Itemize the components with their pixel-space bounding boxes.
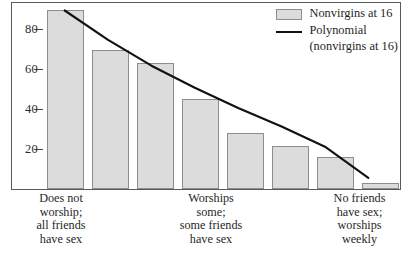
x-label-line: have sex; [312,206,407,220]
chart-root: 80 60 40 20 Does not worship; [0,0,412,263]
y-tick-label: 80 [25,22,38,37]
x-label-line: worship; [11,206,111,220]
x-axis-label-right: No friends have sex; worships weekly [312,192,407,246]
x-label-line: weekly [312,233,407,247]
x-label-line: some; [156,206,266,220]
x-axis-label-middle: Worships some; some friends have sex [156,192,266,246]
bar [272,146,309,189]
bar [317,157,354,189]
bar [137,63,174,189]
y-tick-label: 60 [25,62,38,77]
x-label-line: No friends [312,192,407,206]
legend-line-sublabel: (nonvirgins at 16) [309,39,398,54]
x-axis-label-left: Does not worship; all friends have sex [11,192,111,246]
bar [92,50,129,189]
legend-item-bar: Nonvirgins at 16 [276,6,398,21]
bar [362,183,399,189]
legend-bar-label: Nonvirgins at 16 [309,6,392,21]
x-label-line: Worships [156,192,266,206]
x-label-line: some friends [156,219,266,233]
y-tick-label: 20 [25,142,38,157]
legend-bar-swatch-icon [276,9,302,20]
x-label-line: all friends [11,219,111,233]
y-tick-label: 40 [25,102,38,117]
legend-line-swatch-icon [276,31,302,33]
chart-legend: Nonvirgins at 16 Polynomial (nonvirgins … [276,6,398,54]
x-label-line: have sex [156,233,266,247]
x-label-line: Does not [11,192,111,206]
bar [227,133,264,189]
legend-item-line: Polynomial [276,23,398,38]
bar [182,99,219,189]
legend-line-label: Polynomial [309,23,366,38]
x-label-line: worships [312,219,407,233]
bar [47,10,84,189]
x-label-line: have sex [11,233,111,247]
